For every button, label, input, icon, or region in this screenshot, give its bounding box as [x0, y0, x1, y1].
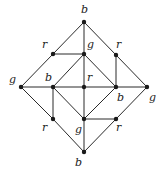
vertex-v5: [51, 85, 55, 89]
edge-v7-v10: [84, 87, 116, 119]
vertex-v8: [145, 85, 149, 89]
vertex-v4: [19, 85, 23, 89]
edge-v4-v9: [21, 87, 53, 119]
graph-diagram: brgrgbrbgrgrb: [0, 0, 165, 171]
vertex-label-v4: g: [9, 73, 16, 86]
vertex-label-v12: b: [75, 156, 82, 169]
vertex-label-v10: g: [75, 123, 82, 136]
edge-v5-v10: [53, 87, 84, 119]
vertex-v9: [51, 117, 55, 121]
vertex-v7: [114, 85, 118, 89]
vertex-label-v8: g: [149, 91, 156, 104]
vertex-label-v0: b: [81, 3, 88, 16]
vertex-v3: [114, 53, 118, 57]
vertex-label-v11: r: [116, 121, 122, 134]
vertex-v1: [51, 52, 55, 56]
vertex-label-v9: r: [42, 121, 48, 134]
vertex-v2: [82, 52, 86, 56]
vertex-label-v2: g: [87, 38, 94, 51]
vertex-v12: [82, 150, 86, 154]
edge-v11-v12: [84, 119, 116, 152]
vertex-v0: [82, 20, 86, 24]
edge-v3-v8: [116, 55, 147, 87]
edge-v0-v1: [53, 22, 84, 54]
vertex-label-v1: r: [42, 38, 48, 51]
edge-v2-v5: [53, 54, 84, 87]
vertex-label-v3: r: [116, 38, 122, 51]
vertex-v10: [82, 117, 86, 121]
vertex-v6: [82, 85, 86, 89]
vertex-label-v5: b: [45, 71, 52, 84]
vertex-label-v6: r: [87, 71, 93, 84]
vertex-label-v7: b: [117, 91, 124, 104]
